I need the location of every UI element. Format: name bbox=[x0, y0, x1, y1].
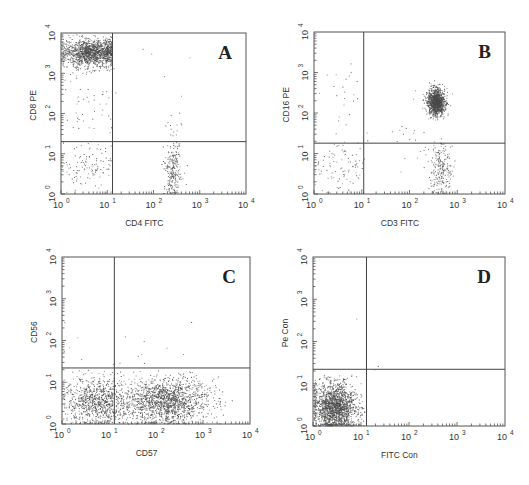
panel-letter: D bbox=[477, 266, 491, 287]
y-tick-exponent: 2 bbox=[296, 333, 303, 337]
y-tick-label: 10 bbox=[299, 255, 309, 265]
y-tick-exponent: 3 bbox=[296, 290, 303, 294]
x-tick-exponent: 1 bbox=[366, 429, 370, 436]
y-tick-label: 10 bbox=[299, 297, 309, 307]
y-tick-label: 10 bbox=[299, 424, 309, 434]
x-tick-exponent: 3 bbox=[462, 429, 466, 436]
x-tick-exponent: 4 bbox=[510, 429, 514, 436]
scatter-plot-d: 100101102103104100101102103104FITC ConPe… bbox=[0, 0, 529, 485]
x-tick-label: 10 bbox=[449, 432, 459, 442]
x-tick-exponent: 2 bbox=[414, 429, 418, 436]
x-tick-label: 10 bbox=[353, 432, 363, 442]
x-tick-exponent: 0 bbox=[318, 429, 322, 436]
y-tick-exponent: 0 bbox=[296, 417, 303, 421]
y-tick-exponent: 4 bbox=[296, 248, 303, 252]
x-tick-label: 10 bbox=[401, 432, 411, 442]
x-tick-label: 10 bbox=[497, 432, 507, 442]
y-tick-label: 10 bbox=[299, 339, 309, 349]
y-tick-label: 10 bbox=[299, 382, 309, 392]
x-axis-title: FITC Con bbox=[381, 450, 418, 460]
y-tick-exponent: 1 bbox=[296, 375, 303, 379]
data-points bbox=[314, 319, 379, 427]
y-axis-title: Pe Con bbox=[280, 319, 290, 348]
